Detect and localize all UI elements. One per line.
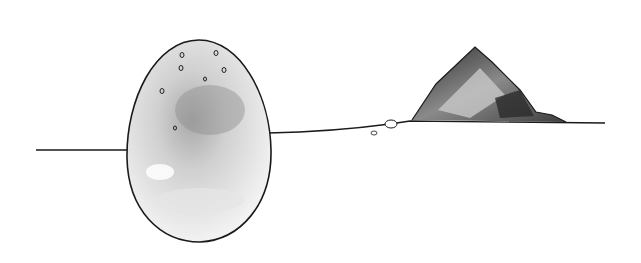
illustration xyxy=(0,0,641,263)
pebble xyxy=(371,131,377,135)
pebble xyxy=(385,120,397,128)
horizon-line xyxy=(36,121,605,150)
scene-drawing xyxy=(0,0,641,263)
crystal-mountain xyxy=(412,47,566,122)
speckled-egg-stone xyxy=(127,40,271,242)
